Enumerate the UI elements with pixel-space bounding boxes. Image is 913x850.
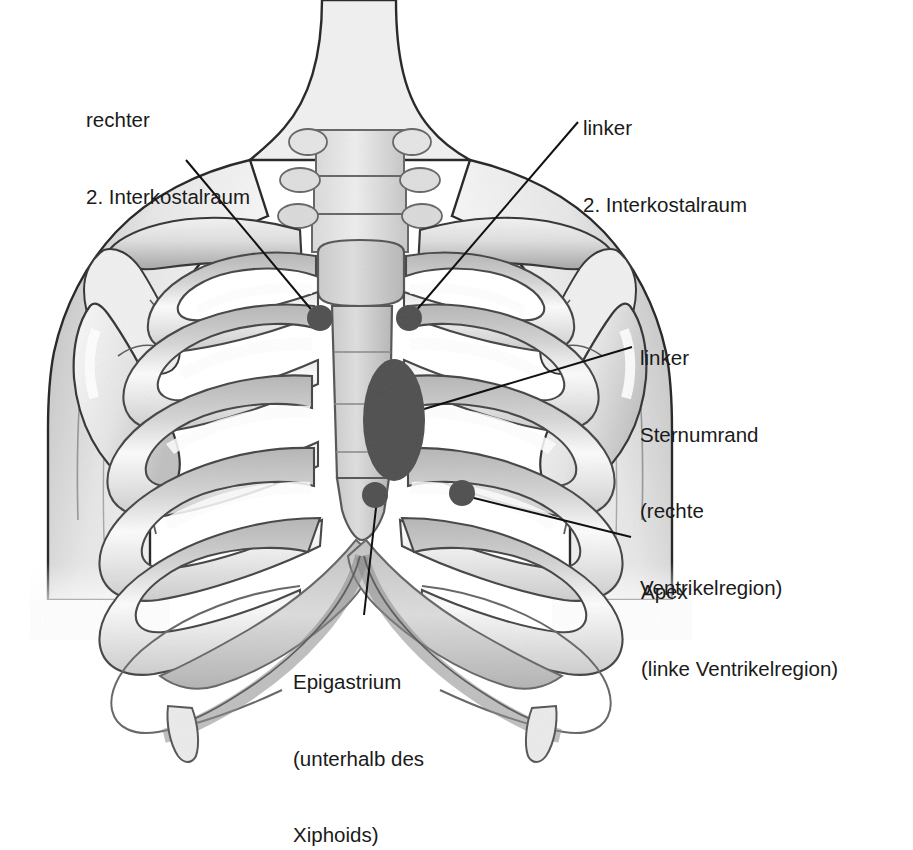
label-epigastrium: Epigastrium (unterhalb des Xiphoids) bbox=[293, 618, 424, 850]
label-right-intercostal-line2: 2. Interkostalraum bbox=[86, 184, 250, 210]
floating-rib-tip-right bbox=[526, 706, 557, 762]
label-left-sternal-border-line2: Sternumrand bbox=[640, 422, 782, 448]
marker-left-2nd-intercostal[interactable] bbox=[396, 305, 422, 331]
manubrium bbox=[318, 240, 404, 306]
label-right-intercostal-line1: rechter bbox=[86, 107, 250, 133]
label-left-intercostal-line2: 2. Interkostalraum bbox=[583, 192, 747, 218]
label-left-sternal-border-line3: (rechte bbox=[640, 498, 782, 524]
marker-epigastrium[interactable] bbox=[362, 482, 388, 508]
label-apex-line2: (linke Ventrikelregion) bbox=[641, 656, 838, 682]
label-left-sternal-border-line1: linker bbox=[640, 345, 782, 371]
marker-right-2nd-intercostal[interactable] bbox=[307, 305, 333, 331]
label-epigastrium-line3: Xiphoids) bbox=[293, 822, 424, 848]
label-apex: Apex (linke Ventrikelregion) bbox=[641, 528, 838, 732]
floating-rib-tip-left bbox=[167, 706, 198, 762]
marker-left-sternal-border[interactable] bbox=[363, 359, 425, 481]
marker-apex[interactable] bbox=[449, 480, 475, 506]
label-left-intercostal: linker 2. Interkostalraum bbox=[583, 64, 747, 268]
label-epigastrium-line1: Epigastrium bbox=[293, 669, 424, 695]
label-right-intercostal: rechter 2. Interkostalraum bbox=[86, 56, 250, 260]
label-left-intercostal-line1: linker bbox=[583, 115, 747, 141]
label-epigastrium-line2: (unterhalb des bbox=[293, 746, 424, 772]
cervical-spine bbox=[278, 129, 442, 252]
label-apex-line1: Apex bbox=[641, 579, 838, 605]
